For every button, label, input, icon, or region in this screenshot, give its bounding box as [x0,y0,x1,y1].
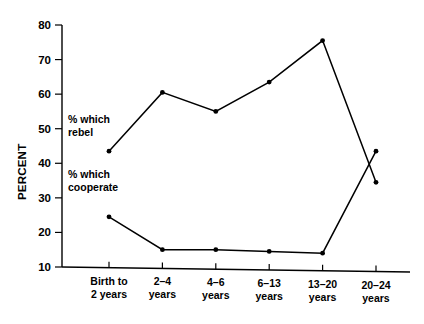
y-tick-label: 30 [38,192,51,204]
y-tick-label: 50 [38,123,51,135]
x-axis-line [62,267,410,272]
data-point [213,247,218,252]
x-category-label: Birth to2 years [90,275,127,300]
y-tick-label: 20 [38,226,51,238]
data-point [320,251,325,256]
data-point [160,247,165,252]
data-point [107,149,112,154]
data-point [374,149,379,154]
series-lines [109,41,376,254]
cooperate-label: % whichcooperate [68,168,118,193]
y-axis-tick-labels: 1020304050607080 [38,19,51,273]
x-axis-category-labels: Birth to2 years2–4years4–6years6–13years… [90,275,390,304]
data-point [374,180,379,185]
y-axis-ticks [55,25,62,267]
series-line-1 [109,41,376,183]
x-category-label: 2–4years [149,275,177,300]
data-point [107,214,112,219]
y-axis-title: PERCENT [16,144,28,200]
x-category-label: 6–13years [255,277,283,302]
y-tick-label: 80 [38,19,51,31]
y-tick-label: 10 [38,261,51,273]
data-point [160,90,165,95]
x-category-label: 13–20years [308,278,337,303]
rebel-label: % whichrebel [68,113,110,138]
x-category-label: 4–6years [202,276,230,301]
data-point [267,249,272,254]
y-tick-label: 60 [38,88,51,100]
data-point [320,38,325,43]
y-tick-label: 70 [38,54,51,66]
data-point [213,109,218,114]
series-line-2 [109,151,376,253]
x-category-label: 20–24years [361,279,390,304]
chart-container: PERCENT 1020304050607080 Birth to2 years… [0,0,424,324]
line-chart: PERCENT 1020304050607080 Birth to2 years… [0,0,424,324]
series-annotations: % whichrebel% whichcooperate [68,113,118,193]
y-tick-label: 40 [38,157,51,169]
data-point [267,80,272,85]
